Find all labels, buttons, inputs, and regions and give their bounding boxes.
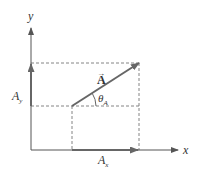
ax-label: Ax: [97, 153, 109, 169]
y-axis-label: y: [27, 9, 34, 23]
angle-arc: [92, 93, 96, 106]
dashed-guides: [31, 63, 139, 150]
x-axis-label: x: [182, 143, 189, 157]
vector-components-diagram: y x A → θA Ay Ax: [0, 0, 201, 173]
ay-label: Ay: [11, 89, 23, 105]
vector-arrow-symbol: →: [97, 69, 105, 78]
angle-theta-label: θA: [98, 92, 108, 107]
